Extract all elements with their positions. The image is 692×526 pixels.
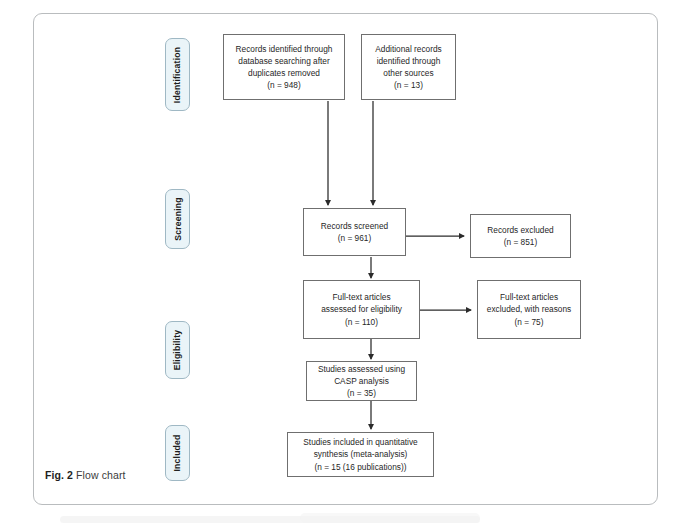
node-text-line: Records excluded bbox=[487, 224, 553, 236]
node-count-line: (n = 851) bbox=[504, 236, 537, 248]
node-fulltext-excluded: Full-text articles excluded, with reason… bbox=[477, 280, 581, 339]
stage-label-screening: Screening bbox=[165, 189, 190, 249]
prisma-flow-diagram: Identification Screening Eligibility Inc… bbox=[34, 14, 659, 506]
node-count-line: (n = 75) bbox=[515, 316, 544, 328]
node-text-line: synthesis (meta-analysis) bbox=[314, 448, 408, 460]
stage-label-text: Eligibility bbox=[173, 330, 183, 370]
figure-caption-label: Fig. 2 bbox=[45, 469, 73, 481]
node-text-line: Full-text articles bbox=[332, 291, 390, 303]
stage-label-text: Included bbox=[173, 435, 183, 472]
node-text-line: database searching after bbox=[238, 55, 329, 67]
node-count-line: (n = 15 (16 publications)) bbox=[314, 461, 406, 473]
node-text-line: excluded, with reasons bbox=[487, 303, 571, 315]
node-casp-assessed: Studies assessed using CASP analysis (n … bbox=[306, 361, 417, 401]
node-text-line: identified through bbox=[377, 55, 441, 67]
stage-label-text: Identification bbox=[173, 46, 183, 102]
node-records-screened: Records screened (n = 961) bbox=[303, 208, 406, 256]
node-text-line: Records identified through bbox=[236, 43, 333, 55]
node-text-line: Full-text articles bbox=[500, 291, 558, 303]
node-text-line: duplicates removed bbox=[248, 67, 320, 79]
node-text-line: other sources bbox=[383, 67, 433, 79]
node-text-line: assessed for eligibility bbox=[321, 303, 402, 315]
node-additional-records: Additional records identified through ot… bbox=[361, 34, 456, 100]
node-text-line: Studies included in quantitative bbox=[303, 436, 417, 448]
scanned-page: Identification Screening Eligibility Inc… bbox=[0, 0, 692, 526]
stage-label-identification: Identification bbox=[165, 38, 190, 111]
figure-frame: Identification Screening Eligibility Inc… bbox=[33, 13, 658, 505]
stage-label-text: Screening bbox=[173, 197, 183, 240]
node-text-line: Additional records bbox=[375, 43, 441, 55]
node-text-line: Records screened bbox=[321, 220, 388, 232]
node-text-line: Studies assessed using bbox=[318, 363, 405, 375]
node-fulltext-assessed: Full-text articles assessed for eligibil… bbox=[303, 280, 420, 339]
figure-caption: Fig. 2 Flow chart bbox=[45, 469, 126, 481]
node-records-identified: Records identified through database sear… bbox=[223, 34, 345, 100]
node-studies-included: Studies included in quantitative synthes… bbox=[287, 432, 434, 477]
node-text-line: CASP analysis bbox=[334, 375, 389, 387]
stage-label-eligibility: Eligibility bbox=[165, 321, 190, 379]
node-count-line: (n = 110) bbox=[345, 316, 378, 328]
node-count-line: (n = 13) bbox=[394, 79, 423, 91]
figure-caption-text: Flow chart bbox=[76, 469, 125, 481]
node-count-line: (n = 35) bbox=[347, 387, 376, 399]
node-count-line: (n = 948) bbox=[267, 79, 300, 91]
node-count-line: (n = 961) bbox=[338, 232, 371, 244]
scan-artifact bbox=[300, 513, 480, 523]
node-records-excluded: Records excluded (n = 851) bbox=[470, 214, 571, 258]
stage-label-included: Included bbox=[165, 425, 190, 481]
